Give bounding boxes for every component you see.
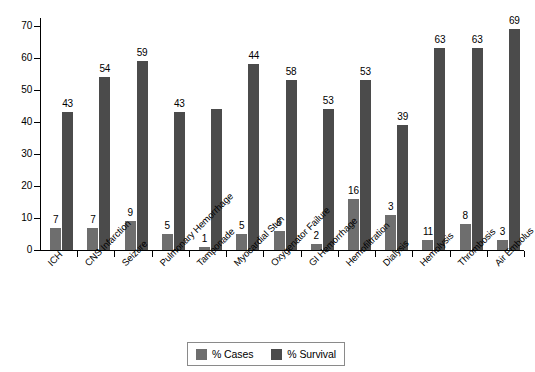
- y-axis-tick-label-wrap: 40: [0, 117, 32, 127]
- y-axis-tick: [34, 250, 40, 251]
- y-axis-tick-label: 0: [2, 245, 32, 255]
- y-axis-tick-label: 70: [2, 21, 32, 31]
- x-axis-tick: [375, 251, 376, 257]
- bar-value-label-survival: 54: [93, 64, 116, 74]
- x-axis-tick: [450, 251, 451, 257]
- legend-item-cases: % Cases: [196, 349, 253, 360]
- x-axis-label: ICH: [46, 250, 64, 268]
- bar-value-label-survival: 53: [317, 96, 340, 106]
- bar-survival: [434, 48, 445, 250]
- plot-area: 743754959543154465825316533391163863369: [40, 18, 523, 250]
- bar-survival: [99, 77, 110, 250]
- bar-survival: [286, 80, 297, 250]
- bar-value-label-survival: 53: [354, 67, 377, 77]
- y-axis-tick-label: 20: [2, 181, 32, 191]
- legend-item-survival: % Survival: [271, 349, 336, 360]
- bar-value-label-survival: 58: [280, 67, 303, 77]
- y-axis-tick-label-wrap: 0: [0, 245, 32, 255]
- bar-survival: [62, 112, 73, 250]
- y-axis-tick-label-wrap: 20: [0, 181, 32, 191]
- x-axis-tick: [189, 251, 190, 257]
- x-axis-tick: [114, 251, 115, 257]
- legend-label-cases: % Cases: [212, 349, 253, 360]
- x-axis-tick: [301, 251, 302, 257]
- x-axis-tick: [487, 251, 488, 257]
- legend-swatch-survival: [271, 349, 282, 360]
- bar-survival: [211, 109, 222, 250]
- bar-survival: [509, 29, 520, 250]
- bar-value-label-survival: 63: [428, 35, 451, 45]
- bar-value-label-survival: 43: [56, 99, 79, 109]
- legend-label-survival: % Survival: [287, 349, 336, 360]
- bar-value-label-survival: 59: [131, 48, 154, 58]
- bar-value-label-survival: 69: [503, 16, 526, 26]
- y-axis-tick-label-wrap: 10: [0, 213, 32, 223]
- bar-value-label-survival: 44: [242, 51, 265, 61]
- bar-survival: [472, 48, 483, 250]
- chart-legend: % Cases % Survival: [187, 342, 345, 366]
- bar-value-label-survival: 39: [391, 112, 414, 122]
- x-axis-tick: [152, 251, 153, 257]
- y-axis-tick-label-wrap: 60: [0, 53, 32, 63]
- y-axis-tick-label: 50: [2, 85, 32, 95]
- x-axis-tick: [263, 251, 264, 257]
- y-axis-tick-label-wrap: 70: [0, 21, 32, 31]
- bar-survival: [323, 109, 334, 250]
- x-axis-tick: [412, 251, 413, 257]
- bar-survival: [174, 112, 185, 250]
- x-axis-tick: [524, 251, 525, 257]
- bar-value-label-survival: 43: [168, 99, 191, 109]
- x-axis-tick: [77, 251, 78, 257]
- y-axis-tick-label: 40: [2, 117, 32, 127]
- y-axis-tick-label-wrap: 30: [0, 149, 32, 159]
- bar-value-label-survival: 63: [466, 35, 489, 45]
- y-axis-tick-label: 30: [2, 149, 32, 159]
- bar-cases: [50, 228, 61, 250]
- x-axis-tick: [338, 251, 339, 257]
- bar-survival: [137, 61, 148, 250]
- x-axis-tick: [226, 251, 227, 257]
- y-axis-tick-label: 60: [2, 53, 32, 63]
- y-axis-tick-label: 10: [2, 213, 32, 223]
- bar-survival: [360, 80, 371, 250]
- bar-survival: [248, 64, 259, 250]
- legend-swatch-cases: [196, 349, 207, 360]
- y-axis-tick-label-wrap: 50: [0, 85, 32, 95]
- bar-survival: [397, 125, 408, 250]
